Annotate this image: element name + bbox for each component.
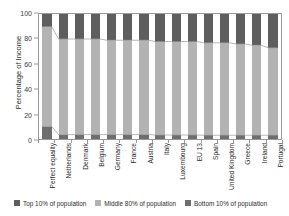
bar-segment-top-10 <box>236 14 245 44</box>
bar-segment-top-10 <box>220 14 229 43</box>
bar-segment-bottom-10 <box>268 135 277 139</box>
legend-item: Top 10% of population <box>14 200 86 207</box>
bar-segment-bottom-10 <box>123 135 132 139</box>
bar-segment-top-10 <box>75 14 84 39</box>
bar-column <box>87 14 103 139</box>
bar-segment-top-10 <box>91 14 100 39</box>
x-axis-label: Netherlands <box>65 143 72 179</box>
stacked-bar <box>59 14 68 139</box>
bar-column <box>217 14 233 139</box>
bar-column <box>184 14 200 139</box>
bar-segment-bottom-10 <box>75 135 84 139</box>
stacked-bar <box>268 14 277 139</box>
legend-label: Bottom 10% of population <box>194 200 267 207</box>
bar-segment-middle-80 <box>252 45 261 135</box>
bar-segment-middle-80 <box>59 39 68 135</box>
bar-column <box>39 14 55 139</box>
bar-segment-middle-80 <box>172 42 181 136</box>
x-axis-label: Luxembourg <box>179 143 186 180</box>
chart-legend: Top 10% of populationMiddle 80% of popul… <box>14 196 276 210</box>
x-axis-label: United Kingdom <box>228 143 235 190</box>
legend-item: Middle 80% of population <box>95 200 176 207</box>
bar-segment-bottom-10 <box>107 135 116 139</box>
legend-swatch <box>185 200 191 206</box>
bar-segment-bottom-10 <box>139 135 148 139</box>
bar-segment-middle-80 <box>220 43 229 136</box>
bar-segment-top-10 <box>252 14 261 45</box>
legend-label: Middle 80% of population <box>104 200 176 207</box>
stacked-bar <box>75 14 84 139</box>
bar-column <box>152 14 168 139</box>
y-axis-label: 60 <box>24 60 32 67</box>
bar-column <box>233 14 249 139</box>
bar-segment-bottom-10 <box>172 135 181 139</box>
bar-segment-middle-80 <box>91 39 100 135</box>
bar-column <box>200 14 216 139</box>
legend-swatch <box>95 200 101 206</box>
bar-segment-bottom-10 <box>188 135 197 139</box>
x-axis-label: Greece <box>244 143 251 165</box>
bar-segment-bottom-10 <box>204 135 213 139</box>
y-axis-label: 100 <box>20 10 32 17</box>
x-axis-label: Portugal <box>277 143 284 168</box>
bar-segment-bottom-10 <box>59 135 68 139</box>
bar-segment-middle-80 <box>188 42 197 136</box>
stacked-bar <box>155 14 164 139</box>
stacked-bar-chart: Percentage of Income 020406080100 Perfec… <box>0 0 289 216</box>
x-axis-label: Belgium <box>98 143 105 167</box>
bar-column <box>71 14 87 139</box>
bar-segment-top-10 <box>42 14 51 27</box>
y-axis-label: 20 <box>24 111 32 118</box>
x-axis-label: Spain <box>212 143 219 160</box>
x-axis-label: EU 13 <box>196 143 203 161</box>
bar-segment-top-10 <box>139 14 148 40</box>
legend-item: Bottom 10% of population <box>185 200 267 207</box>
bar-column <box>136 14 152 139</box>
bar-segment-middle-80 <box>107 40 116 134</box>
x-axis-label: France <box>130 143 137 164</box>
bar-segment-top-10 <box>123 14 132 40</box>
stacked-bar <box>91 14 100 139</box>
bar-segment-middle-80 <box>236 44 245 135</box>
bar-segment-middle-80 <box>268 48 277 136</box>
bar-column <box>265 14 281 139</box>
bar-segment-bottom-10 <box>220 135 229 139</box>
stacked-bar <box>139 14 148 139</box>
y-axis-tick-labels: 020406080100 <box>0 0 38 143</box>
bar-segment-top-10 <box>188 14 197 42</box>
stacked-bar <box>42 14 51 139</box>
bar-segment-top-10 <box>172 14 181 42</box>
legend-label: Top 10% of population <box>23 200 86 207</box>
bar-segment-bottom-10 <box>42 127 51 140</box>
stacked-bar <box>252 14 261 139</box>
stacked-bar <box>107 14 116 139</box>
bar-segment-middle-80 <box>155 42 164 136</box>
stacked-bar <box>123 14 132 139</box>
bar-segment-middle-80 <box>139 40 148 134</box>
x-axis-label: Perfect equality <box>49 143 56 188</box>
bar-column <box>55 14 71 139</box>
bar-column <box>104 14 120 139</box>
x-axis-label: Ireland <box>261 143 268 163</box>
bar-segment-middle-80 <box>42 27 51 127</box>
bar-column <box>120 14 136 139</box>
bar-segment-bottom-10 <box>91 135 100 139</box>
bar-segment-top-10 <box>155 14 164 42</box>
stacked-bar <box>188 14 197 139</box>
bar-segment-top-10 <box>107 14 116 40</box>
bar-segment-middle-80 <box>204 43 213 136</box>
plot-area <box>38 13 282 140</box>
x-axis-tick-labels: Perfect equalityNetherlandsDenmarkBelgiu… <box>38 143 282 191</box>
y-axis-label: 40 <box>24 86 32 93</box>
bar-segment-middle-80 <box>75 39 84 135</box>
y-axis-label: 0 <box>28 137 32 144</box>
bar-segment-middle-80 <box>123 40 132 134</box>
stacked-bar <box>204 14 213 139</box>
x-axis-label: Denmark <box>82 143 89 170</box>
x-axis-label: Austria <box>147 143 154 164</box>
stacked-bar <box>172 14 181 139</box>
bar-segment-bottom-10 <box>155 135 164 139</box>
bar-segment-top-10 <box>204 14 213 43</box>
bar-segment-bottom-10 <box>252 135 261 139</box>
x-axis-label: Germany <box>114 143 121 170</box>
